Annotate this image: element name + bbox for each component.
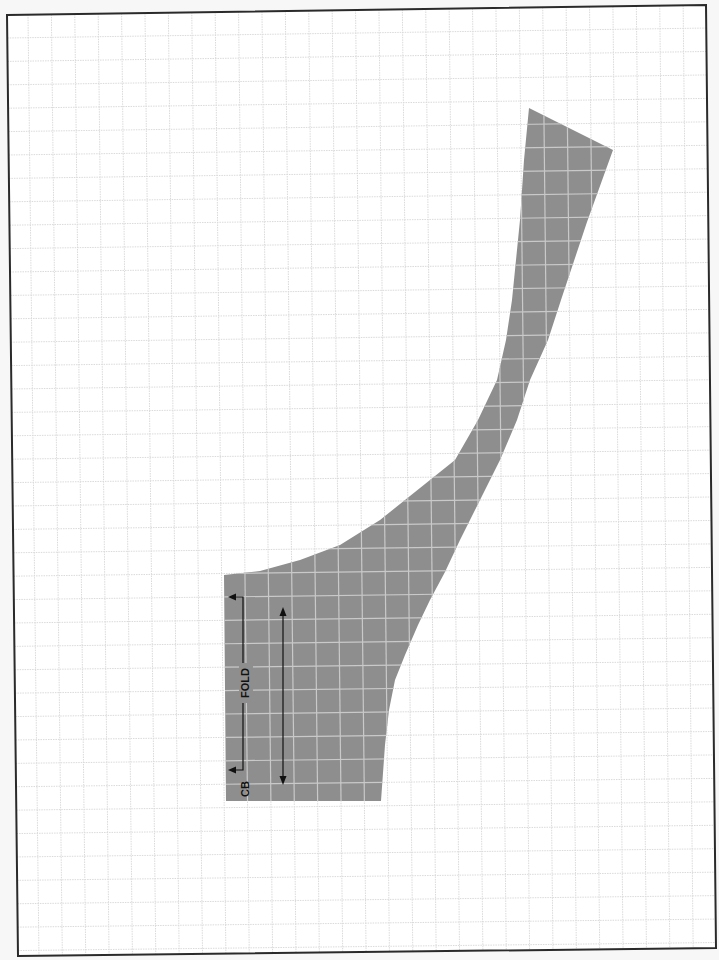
pattern-sheet: FOLD CB	[0, 0, 719, 960]
fold-label: FOLD	[239, 668, 251, 698]
center-back-label: CB	[239, 781, 251, 797]
paper-sheet	[7, 5, 716, 956]
